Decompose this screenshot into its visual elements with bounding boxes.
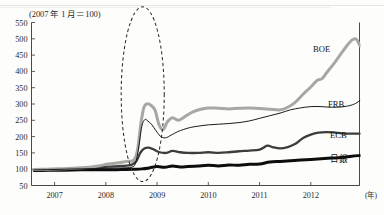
series-line-boe xyxy=(34,39,360,170)
x-tick-label: 2011 xyxy=(252,191,268,200)
y-tick-label: 500 xyxy=(15,35,27,44)
series-label-boj: 日銀 xyxy=(330,153,348,164)
chart-figure: (2007 年 1 月＝100) 50100150200250300350400… xyxy=(0,0,384,215)
y-tick-label: 50 xyxy=(19,182,27,191)
series-label-frb: FRB xyxy=(328,99,345,109)
x-tick-label: 2012 xyxy=(303,191,319,200)
y-tick-label: 100 xyxy=(15,165,27,174)
annotation-group xyxy=(121,7,164,182)
series-label-boe: BOE xyxy=(313,44,330,54)
y-tick-label: 250 xyxy=(15,116,27,125)
x-tick-label: 2007 xyxy=(46,191,62,200)
y-tick-label: 350 xyxy=(15,84,27,93)
y-tick-label: 550 xyxy=(15,19,27,28)
series-labels-group: BOEFRBECB日銀 xyxy=(313,44,348,165)
x-axis-ticks xyxy=(55,182,360,186)
data-series-group xyxy=(34,39,360,171)
y-tick-label: 150 xyxy=(15,149,27,158)
series-line-ecb xyxy=(34,132,360,170)
axis-frame xyxy=(32,23,360,186)
y-axis-ticks xyxy=(32,23,36,186)
y-axis-tick-labels: 50100150200250300350400450500550 xyxy=(15,19,27,191)
y-tick-label: 200 xyxy=(15,133,27,142)
x-axis-tick-labels: 200720082009201020112012 xyxy=(46,191,319,200)
y-tick-label: 300 xyxy=(15,100,27,109)
line-chart-svg: 50100150200250300350400450500550 2007200… xyxy=(0,0,384,215)
x-tick-label: 2008 xyxy=(98,191,114,200)
x-tick-label: 2010 xyxy=(200,191,216,200)
y-tick-label: 400 xyxy=(15,67,27,76)
y-tick-label: 450 xyxy=(15,51,27,60)
crisis-highlight-ellipse xyxy=(121,7,164,182)
series-label-ecb: ECB xyxy=(330,130,347,140)
x-tick-label: 2009 xyxy=(149,191,165,200)
x-axis-unit-label: (年) xyxy=(365,190,377,200)
